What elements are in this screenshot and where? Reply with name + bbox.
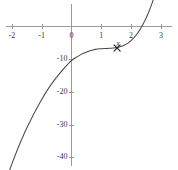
plot-canvas (0, 0, 178, 170)
x-tick-label: 1 (99, 32, 103, 40)
x-tick-label: 3 (159, 32, 163, 40)
cubic-function-plot: -2-10123 -10-20-30-40 x (0, 0, 178, 170)
x-tick-label: 2 (129, 32, 133, 40)
x-tick-label: -1 (38, 32, 45, 40)
y-tick-label: -40 (57, 153, 68, 161)
y-tick-label: -10 (57, 55, 68, 63)
x-tick-label: 0 (70, 32, 74, 40)
function-curve (6, 0, 159, 170)
y-tick-label: -20 (57, 88, 68, 96)
axes-group (6, 4, 172, 166)
marker-label: x (116, 40, 120, 48)
y-tick-label: -30 (57, 121, 68, 129)
x-tick-label: -2 (9, 32, 16, 40)
